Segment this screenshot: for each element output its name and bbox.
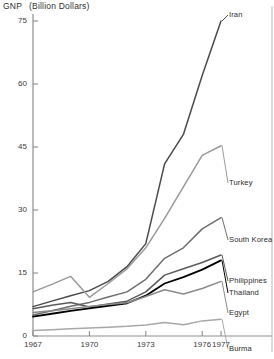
- series-label-philippines: Philippines: [229, 276, 267, 285]
- series-label-south-korea: South Korea: [229, 235, 272, 244]
- series-line-iran: [33, 21, 221, 307]
- series-label-thailand: Thailand: [229, 288, 259, 297]
- series-label-egypt: Egypt: [229, 308, 249, 317]
- y-tick-label-0: 0: [11, 331, 27, 340]
- y-tick-label-60: 60: [11, 79, 27, 88]
- x-tick-label-1967: 1967: [20, 340, 46, 349]
- series-line-turkey: [33, 146, 221, 298]
- series-line-burma: [33, 319, 221, 330]
- series-line-philippines: [33, 255, 221, 309]
- series-label-turkey: Turkey: [229, 178, 253, 187]
- x-tick-label-1970: 1970: [76, 340, 102, 349]
- x-tick-label-1973: 1973: [133, 340, 159, 349]
- y-tick-label-15: 15: [11, 268, 27, 277]
- y-tick-label-75: 75: [11, 16, 27, 25]
- y-tick-label-30: 30: [11, 205, 27, 214]
- series-leader-turkey: [222, 146, 228, 183]
- series-label-iran: Iran: [229, 10, 243, 19]
- gnp-line-chart: GNP(Billion Dollars) 01530456075 1967197…: [0, 0, 274, 359]
- series-label-burma: Burma: [229, 344, 252, 353]
- series-leader-south-korea: [222, 218, 228, 240]
- series-leader-iran: [222, 15, 228, 21]
- y-tick-label-45: 45: [11, 142, 27, 151]
